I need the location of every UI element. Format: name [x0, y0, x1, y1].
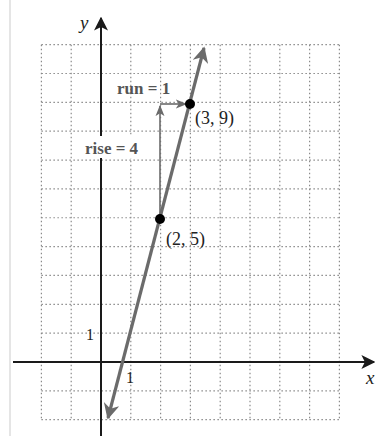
point-2-5 [155, 214, 165, 224]
x-axis-label: x [365, 367, 375, 388]
graph-figure: x y 1 1 rise = 4 run = 1 (2, 5) (3, 9) [0, 0, 385, 436]
point-3-9-label: (3, 9) [195, 108, 234, 129]
run-label: run = 1 [117, 79, 170, 98]
x-unit-tick-label: 1 [126, 369, 134, 386]
y-unit-tick-label: 1 [86, 326, 94, 343]
y-axis-label: y [78, 12, 89, 33]
point-3-9 [185, 99, 195, 109]
rise-label: rise = 4 [85, 139, 139, 158]
point-2-5-label: (2, 5) [166, 229, 205, 250]
